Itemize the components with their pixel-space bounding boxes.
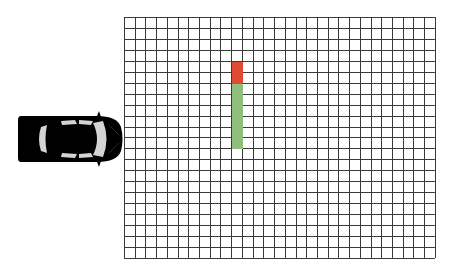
grid-cell-free <box>232 128 243 138</box>
grid-cell-blocked <box>232 73 243 84</box>
grid-cell-free <box>232 84 243 95</box>
grid-cell-free <box>232 117 243 128</box>
grid-cell-blocked <box>232 62 243 73</box>
car-top-view-icon <box>17 113 125 165</box>
grid-cell-free <box>232 95 243 106</box>
occupancy-grid-scene <box>0 0 451 277</box>
grid-cell-free <box>232 138 243 149</box>
occupancy-grid <box>123 16 436 259</box>
grid-cell-free <box>232 106 243 117</box>
